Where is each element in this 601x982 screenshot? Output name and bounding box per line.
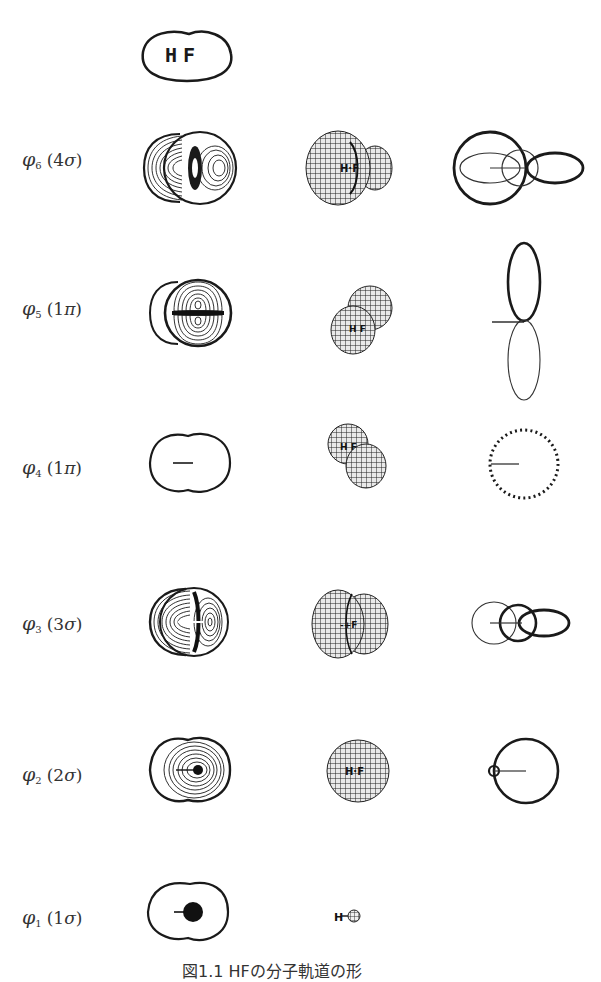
orbital-label: φ6(4σ): [22, 148, 82, 171]
contour-map: [148, 586, 234, 658]
orbital-sym: σ: [64, 765, 76, 785]
orbital-sym: π: [64, 299, 75, 319]
contour-map: [148, 430, 234, 496]
atom-label-f: F: [183, 43, 201, 67]
orbital-label: φ5(1π): [22, 297, 82, 320]
contour-map: [140, 128, 240, 208]
3d-surface: H: [334, 904, 374, 928]
orbital-num: 4: [53, 150, 64, 170]
orbital-label: φ1(1σ): [22, 906, 82, 929]
polar-plot: [450, 128, 590, 208]
phi-symbol: φ: [22, 763, 35, 785]
orbital-sym: σ: [64, 908, 76, 928]
polar-plot: [486, 426, 566, 502]
svg-text:-+F: -+F: [340, 620, 357, 630]
orbital-index: 2: [35, 775, 41, 786]
orbital-sym: σ: [64, 150, 76, 170]
phi-symbol: φ: [22, 906, 35, 928]
phi-symbol: φ: [22, 456, 35, 478]
contour-map: [146, 880, 236, 950]
orbital-sym: σ: [64, 614, 76, 634]
orbital-label: φ3(3σ): [22, 612, 82, 635]
phi-symbol: φ: [22, 612, 35, 634]
mesh-atom-labels: H·F: [340, 163, 359, 174]
figure-caption: 図1.1 HFの分子軌道の形: [182, 958, 362, 982]
orbital-index: 4: [35, 468, 41, 479]
atom-label-h: H: [165, 43, 183, 67]
svg-text:H F: H F: [349, 324, 366, 334]
orbital-index: 1: [35, 918, 41, 929]
orbital-num: 1: [53, 908, 64, 928]
orbital-sym: π: [64, 458, 75, 478]
orbital-index: 3: [35, 624, 41, 635]
orbital-num: 1: [53, 299, 64, 319]
svg-text:H: H: [334, 911, 343, 924]
orbital-index: 6: [35, 160, 41, 171]
orbital-index: 5: [35, 309, 41, 320]
contour-map: [148, 276, 238, 350]
phi-symbol: φ: [22, 148, 35, 170]
svg-text:H F: H F: [340, 442, 357, 452]
orbital-num: 2: [53, 765, 64, 785]
polar-plot: [486, 240, 556, 390]
orbital-label: φ4(1π): [22, 456, 82, 479]
orbital-label: φ2(2σ): [22, 763, 82, 786]
orbital-num: 3: [53, 614, 64, 634]
orbital-num: 1: [53, 458, 64, 478]
3d-surface: H·F: [300, 128, 400, 208]
3d-surface: -+F: [310, 588, 390, 660]
polar-plot: [486, 736, 562, 806]
polar-plot: [470, 600, 580, 646]
3d-surface: H F: [325, 280, 405, 360]
phi-symbol: φ: [22, 297, 35, 319]
contour-map: [148, 734, 234, 806]
hf-molecule-outline: HF: [137, 26, 237, 86]
3d-surface: H·F: [325, 738, 391, 804]
3d-surface: H F: [326, 422, 392, 492]
svg-text:H·F: H·F: [345, 766, 364, 777]
